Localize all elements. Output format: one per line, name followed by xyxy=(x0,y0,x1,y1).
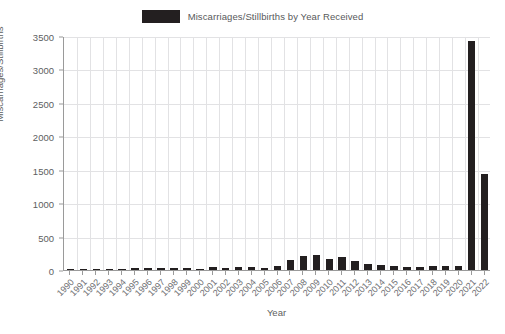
bar xyxy=(300,256,308,270)
plot-area xyxy=(63,37,490,271)
x-tick-mark xyxy=(251,271,252,275)
bar xyxy=(170,268,178,270)
bar-chart: Miscarriages/Stillbirths by Year Receive… xyxy=(0,0,505,334)
x-tick-mark xyxy=(108,271,109,275)
bar xyxy=(326,259,334,270)
bar xyxy=(455,266,463,270)
x-tick-mark xyxy=(186,271,187,275)
x-tick-mark xyxy=(380,271,381,275)
bar xyxy=(80,269,88,270)
x-tick-mark xyxy=(173,271,174,275)
x-tick-mark xyxy=(238,271,239,275)
bar xyxy=(468,41,476,270)
bar xyxy=(235,267,243,270)
bar xyxy=(403,267,411,270)
y-tick-label: 3500 xyxy=(33,32,54,43)
x-tick-mark xyxy=(302,271,303,275)
x-tick-mark xyxy=(199,271,200,275)
y-tick-label: 0 xyxy=(49,266,54,277)
x-tick-mark xyxy=(393,271,394,275)
bar xyxy=(209,267,217,270)
x-tick-mark xyxy=(432,271,433,275)
x-tick-mark xyxy=(277,271,278,275)
bar xyxy=(157,268,165,270)
bar xyxy=(338,257,346,270)
y-tick-label: 2000 xyxy=(33,132,54,143)
x-tick-mark xyxy=(147,271,148,275)
bar xyxy=(364,264,372,270)
x-tick-mark xyxy=(354,271,355,275)
x-tick-mark xyxy=(212,271,213,275)
bar xyxy=(390,266,398,270)
bar xyxy=(118,269,126,270)
chart-legend: Miscarriages/Stillbirths by Year Receive… xyxy=(0,10,505,23)
bar xyxy=(131,268,139,270)
bar xyxy=(313,255,321,270)
x-tick-mark xyxy=(121,271,122,275)
x-tick-mark xyxy=(134,271,135,275)
bar xyxy=(416,267,424,270)
x-tick-mark xyxy=(419,271,420,275)
x-tick-mark xyxy=(95,271,96,275)
x-tick-mark xyxy=(445,271,446,275)
y-axis-title: Miscarriages/Stillbirths xyxy=(0,0,5,191)
x-tick-mark xyxy=(341,271,342,275)
x-tick-mark xyxy=(471,271,472,275)
bar xyxy=(351,261,359,270)
x-tick-mark xyxy=(289,271,290,275)
legend-color-swatch xyxy=(142,10,180,23)
x-axis-title: Year xyxy=(63,307,490,318)
y-tick-label: 500 xyxy=(38,232,54,243)
bar xyxy=(93,269,101,270)
bar xyxy=(248,267,256,270)
x-tick-mark xyxy=(315,271,316,275)
x-tick-mark xyxy=(458,271,459,275)
bar-series xyxy=(64,37,490,270)
bar xyxy=(429,266,437,270)
bar xyxy=(106,269,114,270)
y-axis: Miscarriages/Stillbirths 050010001500200… xyxy=(0,37,63,271)
x-tick-mark xyxy=(484,271,485,275)
x-tick-mark xyxy=(160,271,161,275)
legend-label: Miscarriages/Stillbirths by Year Receive… xyxy=(188,11,364,22)
bar xyxy=(67,269,75,270)
x-tick-mark xyxy=(328,271,329,275)
x-tick-mark xyxy=(367,271,368,275)
y-tick-label: 1000 xyxy=(33,199,54,210)
bar xyxy=(222,268,230,270)
bar xyxy=(183,268,191,270)
y-tick-label: 1500 xyxy=(33,165,54,176)
bar xyxy=(144,268,152,270)
y-tick-label: 2500 xyxy=(33,98,54,109)
x-tick-mark xyxy=(82,271,83,275)
bar xyxy=(442,266,450,270)
bar xyxy=(377,265,385,270)
x-tick-mark xyxy=(225,271,226,275)
x-tick-mark xyxy=(264,271,265,275)
bar xyxy=(287,260,295,270)
x-tick-mark xyxy=(406,271,407,275)
bar xyxy=(481,174,489,270)
y-tick-label: 3000 xyxy=(33,65,54,76)
x-tick-mark xyxy=(69,271,70,275)
bar xyxy=(274,266,282,270)
bar xyxy=(196,269,204,270)
bar xyxy=(261,268,269,270)
